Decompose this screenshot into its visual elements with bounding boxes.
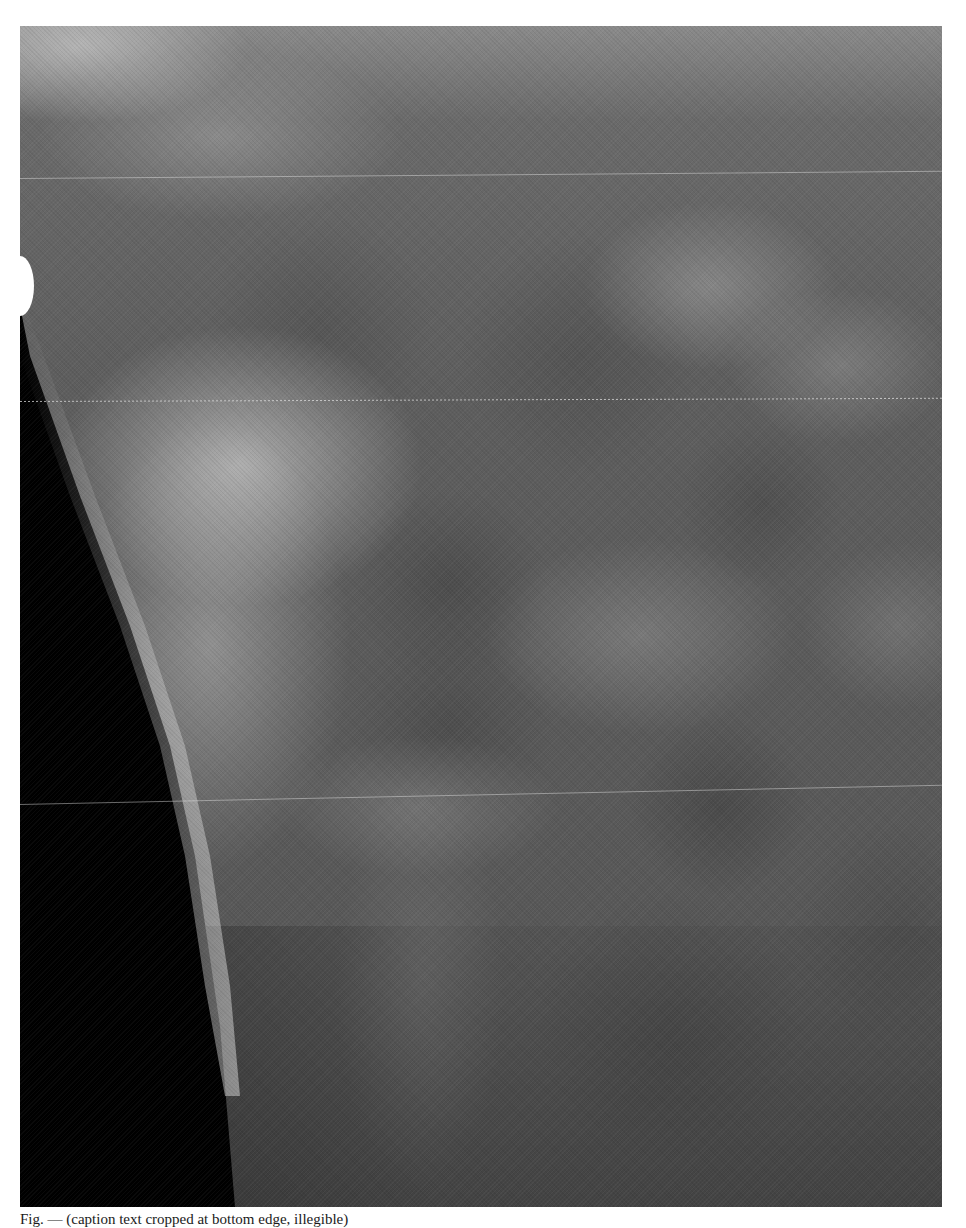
film-grain [20,26,942,1207]
air-region [20,26,942,1207]
tissue-base-layer [20,26,942,1207]
fibroglandular-layer [20,26,942,1207]
scanner-artifact-line [20,171,942,179]
upper-tissue-glow [20,26,942,1207]
radiograph-figure [20,26,942,1207]
scanner-artifact-line [20,785,942,805]
lower-shadow-layer [20,26,942,1207]
skin-line [20,26,942,1207]
fat-lobules-layer [20,26,942,1207]
scanner-artifact-line-dotted [20,398,942,402]
figure-caption: Fig. — (caption text cropped at bottom e… [20,1210,348,1228]
edge-notch [20,256,34,316]
